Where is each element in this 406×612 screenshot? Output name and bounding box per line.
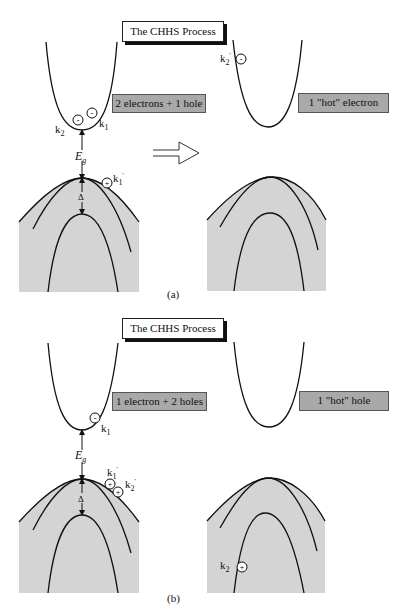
- hole-k1prime-a: +: [102, 178, 112, 188]
- delta-label-b: Δ: [78, 495, 84, 504]
- title-box-b: The CHHS Process: [122, 318, 224, 339]
- electron-k1-b: -: [90, 413, 100, 423]
- svg-text:+: +: [116, 488, 121, 497]
- k1prime-label-b: k1': [107, 466, 118, 481]
- svg-text:-: -: [94, 414, 97, 423]
- electron-k2prime-a: -: [236, 54, 246, 64]
- k1-label-b: k1: [101, 423, 111, 437]
- electron-k2-a: -: [73, 115, 83, 125]
- final-state-label-a: 1 "hot" electron: [298, 93, 389, 113]
- conduction-band-final-b: [234, 342, 304, 427]
- panel-a: - - + -: [19, 40, 326, 292]
- eg-label-a: Eg: [75, 150, 86, 165]
- svg-text:+: +: [240, 563, 245, 572]
- svg-text:-: -: [240, 55, 243, 64]
- electron-k1-a: -: [87, 108, 97, 118]
- svg-text:+: +: [105, 179, 110, 188]
- panel-b: - + + +: [19, 342, 325, 593]
- hollow-right-arrow-icon: [153, 142, 199, 164]
- initial-state-label-b: 1 electron + 2 holes: [112, 392, 207, 411]
- k2prime-label-a: k2': [220, 52, 231, 67]
- k2-label-a: k2: [55, 124, 65, 138]
- panel-caption-a: (a): [167, 288, 179, 300]
- title-text-a: The CHHS Process: [130, 25, 216, 37]
- svg-text:-: -: [77, 116, 80, 125]
- initial-state-label-a: 2 electrons + 1 hole: [112, 94, 206, 113]
- k2-label-b: k2: [220, 560, 230, 574]
- hole-k2-b: +: [237, 562, 247, 572]
- eg-label-b: Eg: [75, 449, 86, 464]
- final-state-label-b: 1 "hot" hole: [299, 391, 389, 411]
- k1prime-label-a: k1': [113, 172, 124, 187]
- svg-text:+: +: [108, 480, 113, 489]
- conduction-band-final-a: [233, 40, 302, 127]
- hole-k2prime-b: +: [113, 487, 123, 497]
- title-text-b: The CHHS Process: [130, 322, 216, 334]
- conduction-band-initial-b: [48, 343, 118, 430]
- k1-label-a: k1: [99, 118, 109, 132]
- title-box-a: The CHHS Process: [122, 21, 224, 42]
- delta-label-a: Δ: [78, 193, 84, 202]
- band-diagram-canvas: - - + -: [0, 0, 406, 612]
- svg-text:-: -: [91, 109, 94, 118]
- k2prime-label-b: k2': [125, 478, 136, 493]
- panel-caption-b: (b): [167, 592, 180, 604]
